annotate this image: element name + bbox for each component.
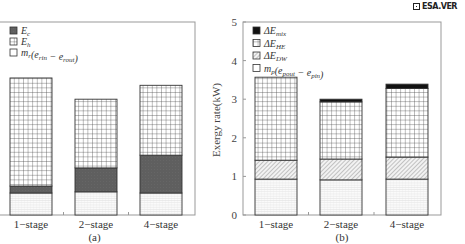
x-category-label: 2−stage — [79, 218, 113, 230]
bar-1-stage — [255, 77, 297, 215]
legend-label-dw: ΔEDW — [263, 50, 288, 63]
legend-label-he: ΔEHE — [263, 38, 286, 51]
x-category-label: 2−stage — [324, 218, 358, 230]
chart-figure: 1−stage2−stage4−stage(a)EcEhmr(erin − er… — [0, 0, 465, 244]
y-tick-label: 2 — [232, 132, 238, 144]
y-tick-label: 4 — [232, 55, 238, 67]
bar-segment — [10, 193, 52, 215]
bar-segment — [140, 155, 182, 193]
bar-segment — [10, 186, 52, 193]
legend-label-mix: ΔEmix — [263, 25, 287, 38]
x-category-label: 4−stage — [144, 218, 178, 230]
y-axis-title: Exergy rate(kW) — [210, 83, 223, 157]
bar-segment — [320, 159, 362, 180]
x-category-label: 4−stage — [390, 218, 424, 230]
panel-a: 1−stage2−stage4−stage(a)EcEhmr(erin − er… — [0, 22, 195, 244]
bar-segment — [386, 84, 428, 88]
legend-swatch-icon — [253, 27, 260, 34]
bar-segment — [255, 179, 297, 215]
legend: ΔEmixΔEHEΔEDWmp(epout − epin) — [253, 25, 324, 81]
bar-segment — [75, 168, 117, 192]
panel-b: 0123451−stage2−stage4−stage(b)ΔEmixΔEHEΔ… — [232, 16, 442, 244]
legend-swatch-icon — [10, 38, 17, 45]
bar-2-stage — [75, 99, 117, 215]
y-tick-label: 5 — [232, 16, 238, 28]
bar-segment — [320, 180, 362, 215]
bar-segment — [320, 99, 362, 102]
legend-swatch-icon — [253, 52, 260, 59]
bar-segment — [255, 77, 297, 160]
panel-label: (a) — [88, 231, 101, 244]
panel-label: (b) — [336, 231, 349, 244]
bar-segment — [386, 157, 428, 179]
legend-swatch-icon — [10, 27, 17, 34]
bar-segment — [386, 88, 428, 157]
bar-segment — [10, 78, 52, 186]
bar-segment — [75, 99, 117, 168]
legend-label-base: mr(erin − erout) — [21, 47, 79, 65]
legend-swatch-icon — [10, 49, 17, 56]
y-tick-label: 0 — [232, 209, 238, 221]
legend-swatch-icon — [253, 65, 260, 72]
shared-y-axis-label: Exergy rate(kW) — [210, 83, 223, 157]
bar-1-stage — [10, 78, 52, 215]
y-tick-label: 1 — [232, 170, 238, 182]
bar-segment — [75, 192, 117, 215]
bar-segment — [386, 179, 428, 215]
x-category-label: 1−stage — [14, 218, 48, 230]
bar-4-stage — [386, 84, 428, 215]
bar-segment — [320, 102, 362, 159]
bar-segment — [140, 85, 182, 155]
bar-segment — [255, 160, 297, 179]
y-tick-label: 3 — [232, 93, 238, 105]
legend-swatch-icon — [253, 40, 260, 47]
bar-4-stage — [140, 85, 182, 215]
legend: EcEhmr(erin − erout) — [10, 25, 79, 65]
bar-segment — [140, 193, 182, 215]
bar-2-stage — [320, 99, 362, 215]
x-category-label: 1−stage — [259, 218, 293, 230]
